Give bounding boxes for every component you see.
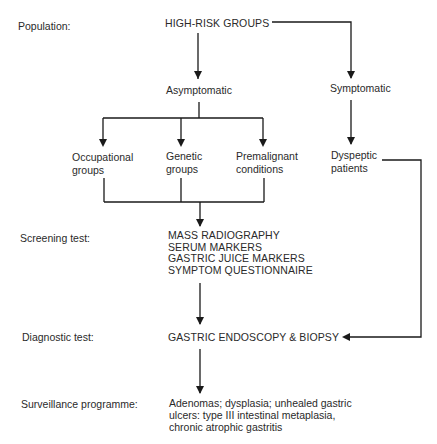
arrow-highrisk-to-symptomatic xyxy=(272,22,351,78)
stage-label-diagnostic: Diagnostic test: xyxy=(22,331,94,344)
stage-label-population: Population: xyxy=(18,20,71,33)
stage-label-surveillance: Surveillance programme: xyxy=(21,398,138,411)
flow-connectors xyxy=(0,0,437,444)
node-screening-tests: MASS RADIOGRAPHY SERUM MARKERS GASTRIC J… xyxy=(168,230,313,276)
node-dyspeptic-patients: Dyspeptic patients xyxy=(331,149,377,174)
node-genetic-groups: Genetic groups xyxy=(166,150,202,175)
node-premalignant-conditions: Premalignant conditions xyxy=(236,150,298,175)
node-asymptomatic: Asymptomatic xyxy=(166,84,232,97)
node-occupational-groups: Occupational groups xyxy=(72,151,133,176)
node-high-risk-groups: HIGH-RISK GROUPS xyxy=(165,17,269,30)
node-diagnostic-endoscopy: GASTRIC ENDOSCOPY & BIOPSY xyxy=(168,331,339,344)
node-symptomatic: Symptomatic xyxy=(330,82,391,95)
stage-label-screening: Screening test: xyxy=(20,232,90,245)
node-surveillance-conditions: Adenomas; dysplasia; unhealed gastric ul… xyxy=(169,397,352,433)
